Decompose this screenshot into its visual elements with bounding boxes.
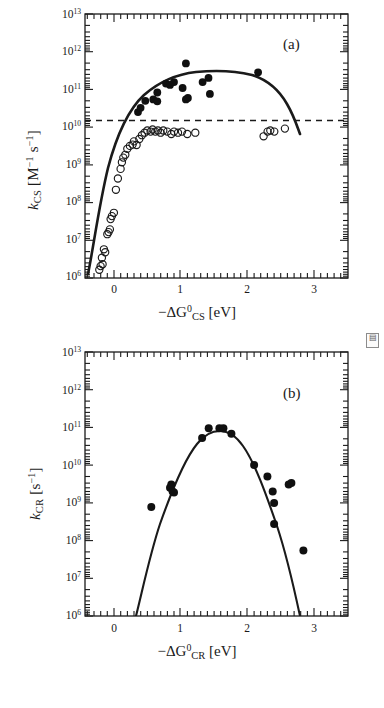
panel-b-filled-circle-series (147, 424, 307, 554)
panel-a: kCS [M−1 s−1] 1013 1012 1011 1010 109 10… (0, 0, 384, 330)
panel-a-plot-area (0, 0, 384, 330)
panel-b-frame (85, 352, 348, 616)
panel-b: kCR [s−1] 1013 1012 1011 1010 109 108 10… (0, 330, 384, 708)
panel-b-plot-area (0, 330, 384, 708)
marcus-plot-figure: kCS [M−1 s−1] 1013 1012 1011 1010 109 10… (0, 0, 384, 708)
panel-a-open-circle-series (96, 125, 289, 273)
panel-b-ticks (85, 352, 348, 616)
